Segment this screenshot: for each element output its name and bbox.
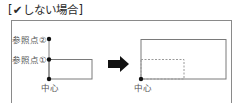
reference-point-2-dot xyxy=(47,37,51,41)
diagram-canvas xyxy=(0,0,244,103)
reference-point-2-label: 参照点② xyxy=(12,33,47,45)
reference-point-1-dot xyxy=(47,57,51,61)
center-label: 中心 xyxy=(41,81,59,93)
reference-point-1-label: 参照点① xyxy=(12,53,47,65)
original-rectangle-dashed xyxy=(141,60,184,80)
after-diagram xyxy=(139,40,226,82)
original-rectangle xyxy=(49,60,92,80)
arrow-icon xyxy=(108,56,129,72)
before-diagram xyxy=(47,37,92,81)
center-label-after: 中心 xyxy=(134,81,152,93)
